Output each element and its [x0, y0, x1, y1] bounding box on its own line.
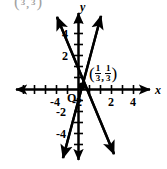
- y-tick-label-neg2: -2: [56, 106, 66, 118]
- intersection-point-dot: [79, 83, 86, 90]
- x-tick-label-2: 2: [108, 96, 114, 108]
- y-axis-label: y: [80, 1, 85, 13]
- origin-label: O: [67, 92, 76, 104]
- label-close-paren: ): [111, 65, 117, 82]
- y-tick-label-4: 4: [62, 28, 68, 40]
- x-axis-label: x: [155, 84, 161, 96]
- y-tick-label-2: 2: [62, 50, 68, 62]
- x-tick-label-4: 4: [130, 96, 136, 108]
- graph-canvas: [0, 0, 167, 169]
- coordinate-graph-figure: -4 -2 2 4 4 2 -2 -4 O x y ( 1 3 , 1 3 ) …: [0, 0, 167, 169]
- cropped-label-close-paren: ): [36, 0, 42, 10]
- intersection-point-label: ( 1 3 , 1 3 ): [89, 64, 117, 83]
- cropped-top-label: ( 3 , 3 ): [14, 0, 42, 10]
- y-tick-label-neg4: -4: [56, 128, 66, 140]
